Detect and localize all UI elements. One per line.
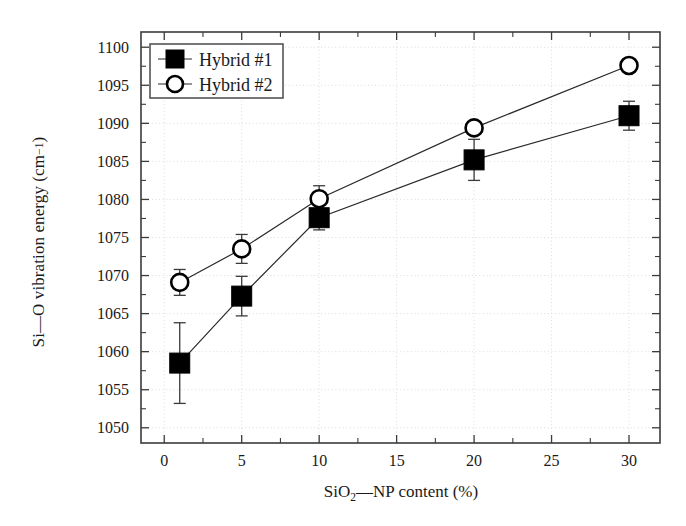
x-tick-label: 15	[389, 452, 405, 469]
y-tick-label: 1075	[97, 229, 129, 246]
legend-marker-circle	[167, 76, 183, 92]
data-point-marker-square	[464, 150, 484, 170]
x-tick-labels: 051015202530	[160, 452, 637, 469]
y-tick-label: 1050	[97, 419, 129, 436]
data-point-marker-circle	[311, 190, 328, 207]
y-tick-label: 1095	[97, 77, 129, 94]
data-point-marker-circle	[233, 240, 250, 257]
data-point-marker-square	[309, 208, 329, 228]
y-tick-label: 1065	[97, 305, 129, 322]
x-tick-label: 5	[238, 452, 246, 469]
data-point-marker-square	[232, 286, 252, 306]
y-tick-label: 1085	[97, 153, 129, 170]
x-tick-label: 20	[466, 452, 482, 469]
legend-marker-square	[166, 50, 184, 68]
x-tick-label: 30	[621, 452, 637, 469]
y-tick-labels: 1050105510601065107010751080108510901095…	[97, 39, 129, 437]
legend-label: Hybrid #2	[199, 75, 273, 95]
data-point-marker-square	[619, 106, 639, 126]
data-point-marker-square	[170, 353, 190, 373]
chart-plot-area: 1050105510601065107010751080108510901095…	[0, 0, 686, 526]
y-tick-label: 1100	[98, 39, 129, 56]
data-point-marker-circle	[171, 274, 188, 291]
y-tick-label: 1080	[97, 191, 129, 208]
y-tick-label: 1060	[97, 343, 129, 360]
chart-legend: Hybrid #1Hybrid #2	[150, 44, 283, 98]
x-tick-label: 10	[311, 452, 327, 469]
y-tick-label: 1055	[97, 381, 129, 398]
data-point-marker-circle	[621, 57, 638, 74]
x-tick-label: 0	[160, 452, 168, 469]
y-tick-label: 1090	[97, 115, 129, 132]
legend-label: Hybrid #1	[199, 50, 273, 70]
data-point-marker-circle	[466, 119, 483, 136]
y-tick-label: 1070	[97, 267, 129, 284]
figure-canvas: Si—O vibration energy (cm−1) SiO2—NP con…	[0, 0, 686, 526]
x-tick-label: 25	[544, 452, 560, 469]
series-line-hybrid-1	[180, 116, 629, 363]
